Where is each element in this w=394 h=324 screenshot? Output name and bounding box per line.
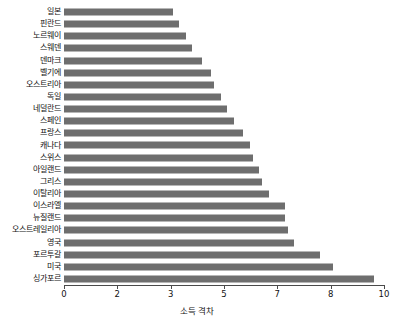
x-tick-label: 3	[168, 290, 173, 299]
bar-row	[64, 273, 384, 285]
category-label: 벨기에	[40, 69, 61, 77]
x-tick-label: 5	[221, 290, 226, 299]
bar	[64, 166, 259, 173]
bar-row	[64, 115, 384, 127]
bar-row	[64, 30, 384, 42]
category-label: 네덜란드	[33, 105, 61, 113]
bar-row	[64, 152, 384, 164]
bar	[64, 215, 285, 222]
category-label: 일본	[47, 8, 61, 16]
bar-row	[64, 212, 384, 224]
bar	[64, 239, 294, 246]
bar-row	[64, 18, 384, 30]
bar	[64, 130, 243, 137]
category-label: 오스트레일리아	[12, 226, 61, 234]
bar	[64, 106, 227, 113]
category-label: 미국	[47, 263, 61, 271]
x-axis-title: 소득 격차	[0, 304, 394, 316]
bar	[64, 45, 192, 52]
bar	[64, 154, 253, 161]
bar-row	[64, 6, 384, 18]
bar-row	[64, 55, 384, 67]
bar-row	[64, 176, 384, 188]
bar	[64, 33, 186, 40]
bar	[64, 275, 374, 282]
bar	[64, 178, 262, 185]
bar	[64, 203, 285, 210]
bar	[64, 57, 202, 64]
category-label: 영국	[47, 239, 61, 247]
bar-row	[64, 261, 384, 273]
bar	[64, 142, 250, 149]
category-label: 캐나다	[40, 142, 61, 150]
bar-row	[64, 224, 384, 236]
plot-area	[64, 6, 384, 285]
income-gap-bar-chart: 일본핀란드노르웨이스웨덴덴마크벨기에오스트리아독일네덜란드스페인프랑스캐나다스위…	[0, 0, 394, 324]
bar	[64, 81, 214, 88]
bar-row	[64, 249, 384, 261]
bar	[64, 9, 173, 16]
category-label: 이탈리아	[33, 190, 61, 198]
bar	[64, 191, 269, 198]
bar-row	[64, 79, 384, 91]
x-tick-label: 8	[328, 290, 333, 299]
category-label: 그리스	[40, 178, 61, 186]
bar	[64, 263, 333, 270]
bar-row	[64, 188, 384, 200]
category-label: 이스라엘	[33, 202, 61, 210]
x-tick-label: 7	[275, 290, 280, 299]
category-axis-labels: 일본핀란드노르웨이스웨덴덴마크벨기에오스트리아독일네덜란드스페인프랑스캐나다스위…	[0, 6, 61, 285]
bar-row	[64, 67, 384, 79]
bar	[64, 93, 221, 100]
bar-row	[64, 103, 384, 115]
category-label: 뉴질랜드	[33, 214, 61, 222]
x-tick-label: 0	[61, 290, 66, 299]
category-label: 스웨덴	[40, 44, 61, 52]
x-tick-label: 2	[115, 290, 120, 299]
category-label: 노르웨이	[33, 32, 61, 40]
category-label: 핀란드	[40, 20, 61, 28]
category-label: 독일	[47, 93, 61, 101]
category-label: 포르투갈	[33, 251, 61, 259]
bar-row	[64, 139, 384, 151]
bar-row	[64, 236, 384, 248]
bar	[64, 227, 288, 234]
bar	[64, 21, 179, 28]
category-label: 스페인	[40, 117, 61, 125]
bar-row	[64, 127, 384, 139]
bar-row	[64, 42, 384, 54]
category-label: 오스트리아	[26, 81, 61, 89]
category-label: 덴마크	[40, 57, 61, 65]
bar	[64, 118, 234, 125]
category-label: 아일랜드	[33, 166, 61, 174]
category-label: 스위스	[40, 154, 61, 162]
bar-row	[64, 164, 384, 176]
bar-row	[64, 91, 384, 103]
bar	[64, 69, 211, 76]
bar	[64, 251, 320, 258]
x-tick-label: 10	[379, 290, 390, 299]
bar-row	[64, 200, 384, 212]
category-label: 싱가포르	[33, 275, 61, 283]
category-label: 프랑스	[40, 129, 61, 137]
